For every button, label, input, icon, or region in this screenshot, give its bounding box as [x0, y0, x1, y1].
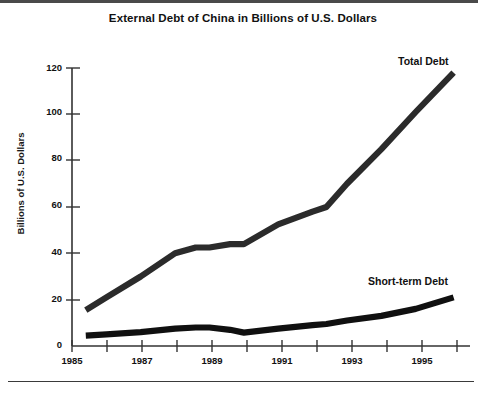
line-short-term-debt	[86, 297, 454, 335]
x-tick-label-1993: 1993	[332, 355, 372, 366]
x-tick-label-1987: 1987	[122, 355, 162, 366]
data-series	[86, 73, 454, 336]
y-tick-label-60: 60	[32, 199, 62, 210]
y-axis-title: Billions of U.S. Dollars	[15, 94, 26, 274]
x-tick-label-1995: 1995	[402, 355, 442, 366]
x-tick-label-1989: 1989	[192, 355, 232, 366]
y-tick-label-0: 0	[32, 339, 62, 350]
y-tick-label-40: 40	[32, 246, 62, 257]
x-tick-label-1991: 1991	[262, 355, 302, 366]
series-label-total-debt: Total Debt	[398, 55, 449, 67]
y-tick-label-80: 80	[32, 152, 62, 163]
y-tick-label-120: 120	[32, 62, 62, 73]
plot-area: Billions of U.S. Dollars 120 100 80 60 4…	[0, 0, 486, 370]
chart-page: External Debt of China in Billions of U.…	[0, 0, 486, 399]
y-axis-ticks	[66, 68, 80, 300]
x-tick-label-1985: 1985	[52, 355, 92, 366]
bottom-divider	[8, 381, 474, 382]
series-label-short-term-debt: Short-term Debt	[368, 275, 448, 287]
y-tick-label-100: 100	[32, 106, 62, 117]
y-tick-label-20: 20	[32, 293, 62, 304]
